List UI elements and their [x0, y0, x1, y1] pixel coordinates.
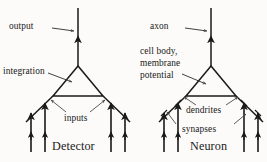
detector-schematic [26, 8, 130, 152]
detector-integration-label: integration [3, 66, 45, 76]
neuron-synapses-label: synapses [182, 124, 216, 134]
neuron-cellbody-label-line3: potential [140, 70, 174, 81]
figure-root: output integration inputs Detector axon … [0, 0, 267, 162]
neuron-axon-label: axon [150, 21, 169, 31]
detector-inputs-label: inputs [64, 113, 88, 123]
neuron-axon-leader [185, 28, 207, 31]
detector-output-label: output [9, 21, 34, 31]
detector-output-leader [52, 28, 74, 31]
diagram-canvas [0, 0, 267, 162]
detector-caption: Detector [52, 140, 95, 153]
neuron-caption: Neuron [190, 140, 227, 153]
neuron-cellbody-label-line2: membrane [140, 58, 180, 69]
detector-soma-triangle [53, 66, 103, 96]
detector-inputs-leaders [51, 100, 105, 112]
neuron-dendrites-label: dendrites [186, 105, 221, 115]
neuron-soma-triangle [186, 66, 236, 96]
neuron-cellbody-label-line1: cell body, [140, 46, 177, 57]
neuron-dendrites-leaders [184, 97, 238, 105]
